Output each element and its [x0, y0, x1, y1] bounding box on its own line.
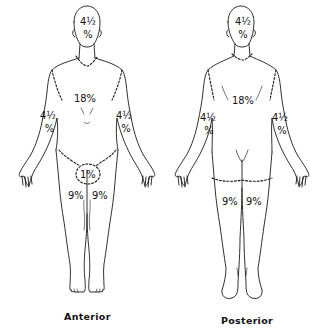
anterior-region-boundaries [52, 56, 122, 184]
posterior-left-leg-label: 9% [222, 196, 238, 207]
posterior-caption: Posterior [221, 315, 273, 326]
posterior-figure [175, 6, 309, 299]
anterior-trunk-label: 18% [74, 93, 96, 104]
posterior-trunk-label: 18% [232, 95, 254, 106]
posterior-right-leg-label: 9% [246, 196, 262, 207]
posterior-left-arm-label: 4½ % [200, 112, 216, 136]
anterior-left-leg-label: 9% [68, 190, 84, 201]
anterior-figure [19, 6, 155, 292]
anterior-right-leg-label: 9% [92, 190, 108, 201]
body-diagram [0, 0, 320, 331]
posterior-head-label: 4½ % [235, 16, 251, 40]
anterior-left-arm-label: 4½ % [40, 110, 56, 134]
anterior-perineum-label: 1% [80, 169, 96, 180]
anterior-caption: Anterior [64, 311, 111, 322]
anterior-right-arm-label: 4½ % [116, 110, 132, 134]
posterior-right-arm-label: 4½ % [272, 112, 288, 136]
anterior-head-label: 4½ % [80, 16, 96, 40]
